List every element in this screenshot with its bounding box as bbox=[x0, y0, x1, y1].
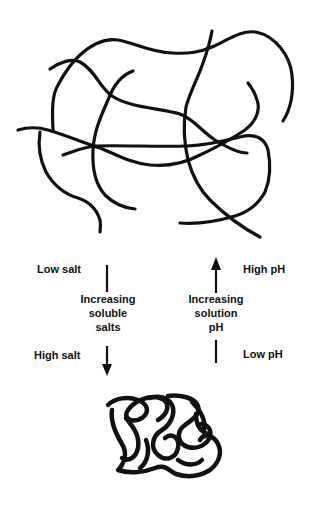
low-ph-label: Low pH bbox=[243, 347, 283, 361]
right-caption-line-3: pH bbox=[181, 320, 251, 334]
coil-strand bbox=[108, 397, 167, 420]
coil-strand bbox=[150, 397, 178, 459]
coil-strand bbox=[122, 418, 202, 468]
left-caption-line-1: Increasing bbox=[74, 292, 142, 306]
high-salt-label: High salt bbox=[34, 348, 80, 362]
low-salt-label: Low salt bbox=[37, 262, 81, 276]
right-caption-line-1: Increasing bbox=[181, 292, 251, 306]
right-caption-line-2: solution bbox=[181, 306, 251, 320]
left-axis-caption: Increasing soluble salts bbox=[74, 292, 142, 334]
collapsed-polymer-coil bbox=[0, 0, 311, 511]
high-ph-label: High pH bbox=[243, 262, 285, 276]
left-caption-line-3: salts bbox=[74, 320, 142, 334]
diagram-canvas: Low salt High salt Increasing soluble sa… bbox=[0, 0, 311, 511]
right-axis-caption: Increasing solution pH bbox=[181, 292, 251, 334]
left-caption-line-2: soluble bbox=[74, 306, 142, 320]
